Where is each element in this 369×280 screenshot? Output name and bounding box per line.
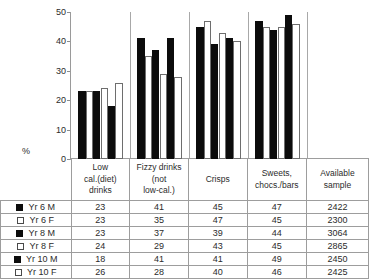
table-cell-value: 39 (188, 227, 247, 240)
header-line: (not (130, 174, 188, 186)
plot-area: % 50403020100 (0, 0, 369, 172)
legend-label: Yr 10 F (27, 266, 57, 278)
y-tick-label: 50 (42, 8, 66, 17)
table-cell-value: 24 (71, 240, 130, 253)
bar-yr-6-m (255, 21, 262, 159)
header-line: Available (307, 168, 368, 180)
bar-yr-6-f (204, 21, 211, 159)
legend-cell: Yr 8 F (1, 240, 72, 253)
header-line: cal.(diet) (72, 174, 130, 186)
table-cell-value: 45 (247, 240, 306, 253)
bar-yr-10-m (108, 106, 115, 159)
bar-yr-8-m (270, 30, 277, 159)
data-table: Low cal.(diet) drinks Fizzy drinks (not … (0, 158, 369, 279)
legend-cell: Yr 6 M (1, 201, 72, 214)
legend-cell: Yr 10 F (1, 266, 72, 279)
table-body: Yr 6 M234145472422Yr 6 F233547452300Yr 8… (1, 201, 369, 279)
table-cell-available-sample: 2865 (306, 240, 368, 253)
table-cell-value: 47 (247, 201, 306, 214)
group-separator (189, 12, 190, 159)
table-header-row: Low cal.(diet) drinks Fizzy drinks (not … (1, 159, 369, 201)
bar-yr-6-m (137, 38, 144, 159)
table-cell-value: 43 (188, 240, 247, 253)
group-separator (130, 12, 131, 159)
header-line: Crisps (189, 174, 247, 186)
header-available-sample: Available sample (306, 159, 368, 201)
legend-label: Yr 8 M (28, 227, 55, 239)
table-cell-value: 49 (247, 253, 306, 266)
table-row: Yr 10 F262840462425 (1, 266, 369, 279)
chart-figure: % 50403020100 Low cal.(diet) drinks Fizz… (0, 0, 369, 280)
table-cell-value: 41 (130, 201, 189, 214)
legend-cell: Yr 6 F (1, 214, 72, 227)
y-axis-label: % (22, 146, 30, 156)
bar-yr-8-f (278, 27, 285, 159)
table-cell-value: 37 (130, 227, 189, 240)
header-line: low-cal.) (130, 185, 188, 197)
bar-yr-10-f (115, 83, 122, 159)
legend-label: Yr 10 M (26, 253, 58, 265)
bar-yr-10-m (226, 38, 233, 159)
table-cell-available-sample: 2450 (306, 253, 368, 266)
group-separator (307, 12, 308, 159)
table-cell-available-sample: 2422 (306, 201, 368, 214)
table-row: Yr 8 F242943452865 (1, 240, 369, 253)
table-cell-value: 29 (130, 240, 189, 253)
group-separator (248, 12, 249, 159)
legend-label: Yr 6 M (28, 201, 55, 213)
y-tick-label: 20 (42, 96, 66, 105)
bar-yr-10-f (292, 24, 299, 159)
white-square-icon (15, 269, 22, 276)
header-legend-spacer (1, 159, 72, 201)
table-cell-value: 23 (71, 201, 130, 214)
header-line: chocs./bars (248, 180, 306, 192)
table-row: Yr 10 M184141492450 (1, 253, 369, 266)
table-cell-value: 41 (130, 253, 189, 266)
table-cell-value: 35 (130, 214, 189, 227)
header-low-cal-diet-drinks: Low cal.(diet) drinks (71, 159, 130, 201)
header-line: drinks (72, 185, 130, 197)
table-cell-value: 47 (188, 214, 247, 227)
bar-yr-6-m (196, 27, 203, 159)
bar-yr-8-f (101, 88, 108, 159)
header-fizzy-drinks: Fizzy drinks (not low-cal.) (130, 159, 189, 201)
table-cell-value: 18 (71, 253, 130, 266)
bar-yr-8-f (219, 33, 226, 159)
bar-yr-6-f (86, 91, 93, 159)
bar-yr-10-m (285, 15, 292, 159)
black-square-icon (16, 204, 23, 211)
header-line: sample (307, 180, 368, 192)
table-cell-value: 45 (247, 214, 306, 227)
y-tick-label: 40 (42, 37, 66, 46)
y-tick-label: 30 (42, 67, 66, 76)
table-cell-value: 23 (71, 227, 130, 240)
legend-cell: Yr 10 M (1, 253, 72, 266)
table-row: Yr 8 M233739443064 (1, 227, 369, 240)
black-square-icon (16, 230, 23, 237)
bar-yr-8-m (211, 44, 218, 159)
table-cell-value: 26 (71, 266, 130, 279)
bar-yr-6-f (263, 27, 270, 159)
bar-yr-10-m (167, 38, 174, 159)
table-cell-value: 46 (247, 266, 306, 279)
bar-yr-8-m (93, 91, 100, 159)
header-line: Fizzy drinks (130, 162, 188, 174)
table-cell-available-sample: 3064 (306, 227, 368, 240)
header-line: Low (72, 162, 130, 174)
table-cell-value: 45 (188, 201, 247, 214)
bar-yr-8-f (160, 74, 167, 159)
table-cell-value: 23 (71, 214, 130, 227)
table-row: Yr 6 M234145472422 (1, 201, 369, 214)
header-sweets-chocs-bars: Sweets, chocs./bars (247, 159, 306, 201)
bar-yr-8-m (152, 50, 159, 159)
table-cell-value: 40 (188, 266, 247, 279)
y-tick-label: 10 (42, 126, 66, 135)
bar-yr-6-m (78, 91, 85, 159)
legend-cell: Yr 8 M (1, 227, 72, 240)
table-cell-available-sample: 2300 (306, 214, 368, 227)
legend-label: Yr 8 F (29, 240, 54, 252)
bar-yr-10-f (233, 41, 240, 159)
white-square-icon (17, 243, 24, 250)
bar-yr-6-f (145, 56, 152, 159)
table-row: Yr 6 F233547452300 (1, 214, 369, 227)
